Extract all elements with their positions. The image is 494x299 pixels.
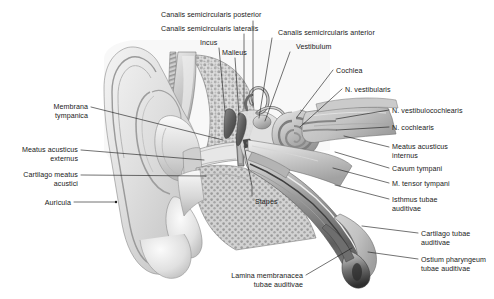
label-meatus-acusticus-externus: Meatus acusticus externus bbox=[22, 146, 78, 163]
label-n-cochlearis: N. cochlearis bbox=[392, 124, 434, 133]
leader-meatus-acusticus-internus bbox=[344, 136, 389, 147]
label-lamina-membranacea-tubae-auditivae: Lamina membranacea tubae auditivae bbox=[231, 272, 303, 289]
leader-cartilago-tubae bbox=[362, 226, 418, 233]
ear-anatomy-figure: Canalis semicircularis posteriorCanalis … bbox=[0, 0, 494, 299]
label-auricula: Auricula bbox=[45, 199, 71, 208]
label-vestibulum: Vestibulum bbox=[296, 43, 331, 52]
label-m-tensor-tympani: M. tensor tympani bbox=[392, 180, 450, 189]
label-canalis-semicircularis-posterior: Canalis semicircularis posterior bbox=[161, 11, 261, 20]
label-ostium-pharyngeum-tubae-auditivae: Ostium pharyngeum tubae auditivae bbox=[421, 256, 486, 273]
label-canalis-semicircularis-anterior: Canalis semicircularis anterior bbox=[278, 29, 375, 38]
label-isthmus-tubae-auditivae: Isthmus tubae auditivae bbox=[392, 196, 437, 213]
label-stapes: Stapes bbox=[255, 198, 278, 207]
label-cartilago-meatus-acustici: Cartilago meatus acustici bbox=[23, 171, 78, 188]
label-cavum-tympani: Cavum tympani bbox=[392, 165, 442, 174]
label-cochlea: Cochlea bbox=[336, 67, 363, 76]
label-canalis-semicircularis-lateralis: Canalis semicircularis lateralis bbox=[161, 25, 258, 34]
label-n-vestibulocochlearis: N. vestibulocochlearis bbox=[392, 107, 463, 116]
label-membrana-tympanica: Membrana tympanica bbox=[54, 103, 88, 120]
label-n-vestibularis: N. vestibularis bbox=[345, 86, 391, 95]
vestibulum bbox=[253, 115, 271, 129]
leader-isthmus bbox=[335, 185, 389, 199]
leader-dot-auricula bbox=[115, 201, 117, 203]
label-incus: Incus bbox=[200, 39, 217, 48]
label-cartilago-tubae-auditivae: Cartilago tubae auditivae bbox=[421, 230, 470, 247]
label-meatus-acusticus-internus: Meatus acusticus internus bbox=[392, 143, 448, 160]
label-malleus: Malleus bbox=[222, 49, 247, 58]
